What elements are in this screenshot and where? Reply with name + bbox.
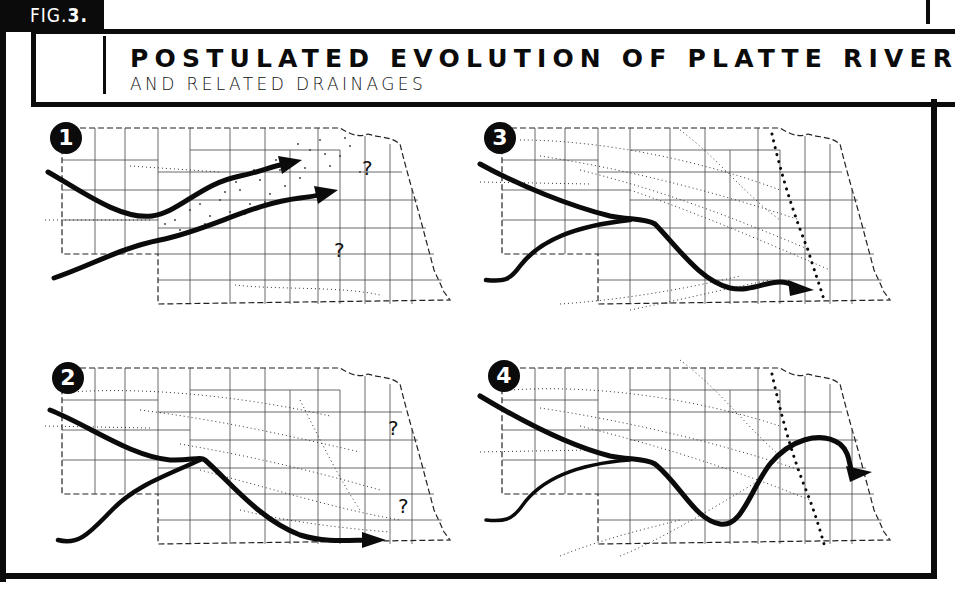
figure-label: FIG.3. xyxy=(30,4,88,26)
figure-tab: FIG.3. xyxy=(0,0,104,32)
header-divider xyxy=(103,36,106,94)
frame-tick xyxy=(926,0,930,24)
map-panel-3: 3 xyxy=(480,120,910,320)
nebraska-map-2 xyxy=(40,360,460,560)
figure-title: POSTULATED EVOLUTION OF PLATTE RIVER xyxy=(130,44,955,73)
uncertain-drainage-marker: ? xyxy=(334,238,345,262)
nebraska-map-4 xyxy=(480,360,910,560)
nebraska-map-3 xyxy=(480,120,910,320)
panel-number-badge: 2 xyxy=(52,362,84,394)
uncertain-drainage-marker: ? xyxy=(398,494,409,518)
map-panel-1: 1 ? ? xyxy=(40,120,460,320)
uncertain-drainage-marker: ? xyxy=(362,156,373,180)
panel-number-badge: 3 xyxy=(484,122,516,154)
nebraska-map-1 xyxy=(40,120,460,320)
map-panel-2: 2 ? ? xyxy=(40,360,460,560)
uncertain-drainage-marker: ? xyxy=(388,416,399,440)
panel-number-badge: 4 xyxy=(488,360,520,392)
map-panel-4: 4 xyxy=(480,360,910,560)
figure-subtitle: AND RELATED DRAINAGES xyxy=(130,74,426,94)
panel-number-badge: 1 xyxy=(50,122,82,154)
